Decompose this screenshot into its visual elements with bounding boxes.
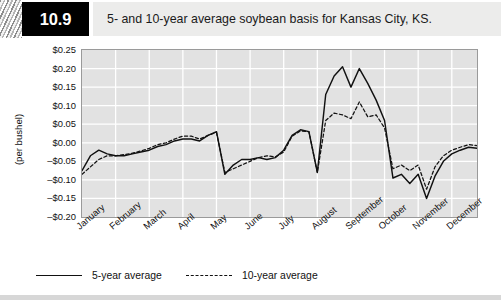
y-tick-label: –$0.20 — [28, 211, 76, 222]
figure-header: 10.9 5- and 10-year average soybean basi… — [0, 0, 501, 38]
chart-svg — [82, 50, 477, 217]
gridlines — [82, 50, 477, 217]
figure-title: 5- and 10-year average soybean basis for… — [107, 2, 432, 36]
y-tick-label: –$0.10 — [28, 173, 76, 184]
y-tick-label: $0.05 — [28, 118, 76, 129]
legend-swatch-solid — [36, 275, 82, 276]
chart-figure: (per bushel) $0.25$0.20$0.15$0.10$0.05$0… — [0, 38, 501, 302]
figure-number-box: 10.9 — [22, 2, 89, 36]
legend-label-10-year: 10-year average — [242, 267, 318, 285]
y-tick-label: –$0.15 — [28, 192, 76, 203]
chart-legend: 5-year average 10-year average — [0, 267, 501, 289]
y-axis-label: (per bushel) — [13, 95, 24, 185]
figure-title-bar: 5- and 10-year average soybean basis for… — [93, 2, 501, 36]
y-tick-label: $0.25 — [28, 44, 76, 55]
legend-swatch-dashed — [186, 275, 232, 276]
bottom-rule — [0, 295, 501, 300]
y-tick-label: –$0.05 — [28, 155, 76, 166]
y-tick-label: $0.15 — [28, 81, 76, 92]
plot-area — [81, 49, 478, 218]
y-tick-label: $0.10 — [28, 99, 76, 110]
legend-label-5-year: 5-year average — [92, 267, 162, 285]
y-tick-label: $0.00 — [28, 136, 76, 147]
figure-number: 10.9 — [22, 2, 89, 36]
decorative-photo-strip — [0, 0, 22, 38]
y-tick-label: $0.20 — [28, 62, 76, 73]
